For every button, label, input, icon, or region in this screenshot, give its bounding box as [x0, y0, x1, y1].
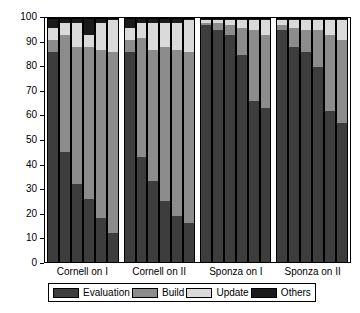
stacked-bar[interactable] [336, 18, 348, 262]
stacked-bar[interactable] [236, 18, 248, 262]
stacked-bar[interactable] [276, 18, 288, 262]
bar-segment-evaluation[interactable] [136, 157, 148, 262]
bar-segment-update[interactable] [107, 20, 119, 52]
stacked-bar[interactable] [47, 18, 59, 262]
bar-segment-build[interactable] [324, 35, 336, 111]
bar-segment-build[interactable] [171, 50, 183, 216]
bar-segment-build[interactable] [224, 25, 236, 35]
bar-segment-build[interactable] [312, 30, 324, 67]
bar-group [121, 18, 197, 262]
bar-segment-update[interactable] [260, 20, 272, 35]
bar-segment-evaluation[interactable] [312, 67, 324, 262]
stacked-bar[interactable] [324, 18, 336, 262]
stacked-bar[interactable] [136, 18, 148, 262]
bar-segment-others[interactable] [124, 18, 136, 28]
legend-entry[interactable]: Others [251, 287, 311, 299]
legend-entry[interactable]: Build [132, 287, 184, 299]
bar-segment-evaluation[interactable] [183, 223, 195, 262]
bar-segment-build[interactable] [71, 47, 83, 184]
stacked-bar[interactable] [171, 18, 183, 262]
bar-segment-update[interactable] [336, 20, 348, 40]
stacked-bar[interactable] [95, 18, 107, 262]
bar-segment-build[interactable] [47, 40, 59, 52]
stacked-bar[interactable] [59, 18, 71, 262]
bar-segment-evaluation[interactable] [47, 52, 59, 262]
bar-segment-evaluation[interactable] [71, 184, 83, 262]
bar-segment-evaluation[interactable] [224, 35, 236, 262]
bar-segment-update[interactable] [59, 23, 71, 35]
bar-segment-build[interactable] [288, 28, 300, 48]
bar-segment-build[interactable] [95, 50, 107, 218]
bar-segment-build[interactable] [183, 52, 195, 223]
stacked-bar[interactable] [147, 18, 159, 262]
bar-segment-build[interactable] [236, 28, 248, 55]
bar-segment-evaluation[interactable] [107, 233, 119, 262]
stacked-bar[interactable] [312, 18, 324, 262]
stacked-bar[interactable] [224, 18, 236, 262]
bar-segment-others[interactable] [83, 18, 95, 35]
bar-segment-evaluation[interactable] [300, 52, 312, 262]
legend-entry[interactable]: Evaluation [53, 287, 130, 299]
bar-segment-build[interactable] [136, 38, 148, 158]
bar-segment-evaluation[interactable] [171, 216, 183, 262]
bar-segment-evaluation[interactable] [95, 218, 107, 262]
bar-segment-evaluation[interactable] [248, 101, 260, 262]
stacked-bar[interactable] [300, 18, 312, 262]
bar-segment-evaluation[interactable] [59, 152, 71, 262]
stacked-bar[interactable] [288, 18, 300, 262]
bar-segment-update[interactable] [236, 20, 248, 27]
bar-segment-build[interactable] [107, 52, 119, 233]
bar-segment-update[interactable] [324, 20, 336, 35]
stacked-bar[interactable] [248, 18, 260, 262]
bar-segment-evaluation[interactable] [236, 55, 248, 262]
bar-segment-update[interactable] [136, 23, 148, 38]
bar-segment-update[interactable] [300, 20, 312, 30]
stacked-bar[interactable] [83, 18, 95, 262]
bar-segment-update[interactable] [71, 23, 83, 47]
stacked-bar[interactable] [107, 18, 119, 262]
bar-segment-build[interactable] [336, 40, 348, 123]
bar-segment-evaluation[interactable] [200, 25, 212, 262]
stacked-bar[interactable] [159, 18, 171, 262]
bar-segment-evaluation[interactable] [212, 30, 224, 262]
bar-segment-update[interactable] [183, 20, 195, 52]
bar-segment-evaluation[interactable] [276, 30, 288, 262]
bar-segment-evaluation[interactable] [260, 108, 272, 262]
bar-segment-build[interactable] [83, 47, 95, 198]
bar-segment-evaluation[interactable] [288, 47, 300, 262]
bar-segment-update[interactable] [159, 23, 171, 47]
bar-segment-update[interactable] [124, 28, 136, 40]
bar-segment-evaluation[interactable] [124, 52, 136, 262]
stacked-bar[interactable] [212, 18, 224, 262]
legend-swatch-icon [251, 288, 277, 298]
bar-segment-evaluation[interactable] [147, 181, 159, 262]
bar-segment-update[interactable] [288, 20, 300, 27]
bar-segment-build[interactable] [147, 50, 159, 182]
bar-segment-update[interactable] [171, 23, 183, 50]
bar-segment-build[interactable] [300, 30, 312, 52]
bar-segment-update[interactable] [95, 23, 107, 50]
bar-segment-evaluation[interactable] [336, 123, 348, 262]
bar-segment-build[interactable] [248, 30, 260, 101]
bar-segment-update[interactable] [248, 20, 260, 30]
stacked-bar[interactable] [183, 18, 195, 262]
bar-segment-evaluation[interactable] [159, 201, 171, 262]
bar-segment-update[interactable] [312, 20, 324, 30]
bar-segment-update[interactable] [47, 28, 59, 40]
bar-segment-update[interactable] [83, 35, 95, 47]
stacked-bar[interactable] [200, 18, 212, 262]
bar-segment-build[interactable] [212, 23, 224, 30]
bar-segment-build[interactable] [59, 35, 71, 152]
bar-segment-build[interactable] [124, 40, 136, 52]
bar-segment-evaluation[interactable] [83, 199, 95, 262]
bar-segment-others[interactable] [47, 18, 59, 28]
x-axis-category-label: Sponza on II [274, 265, 351, 281]
bar-segment-evaluation[interactable] [324, 111, 336, 262]
stacked-bar[interactable] [71, 18, 83, 262]
legend-entry[interactable]: Update [186, 287, 248, 299]
stacked-bar[interactable] [260, 18, 272, 262]
bar-segment-build[interactable] [260, 35, 272, 108]
stacked-bar[interactable] [124, 18, 136, 262]
bar-segment-update[interactable] [147, 23, 159, 50]
bar-segment-build[interactable] [159, 47, 171, 201]
